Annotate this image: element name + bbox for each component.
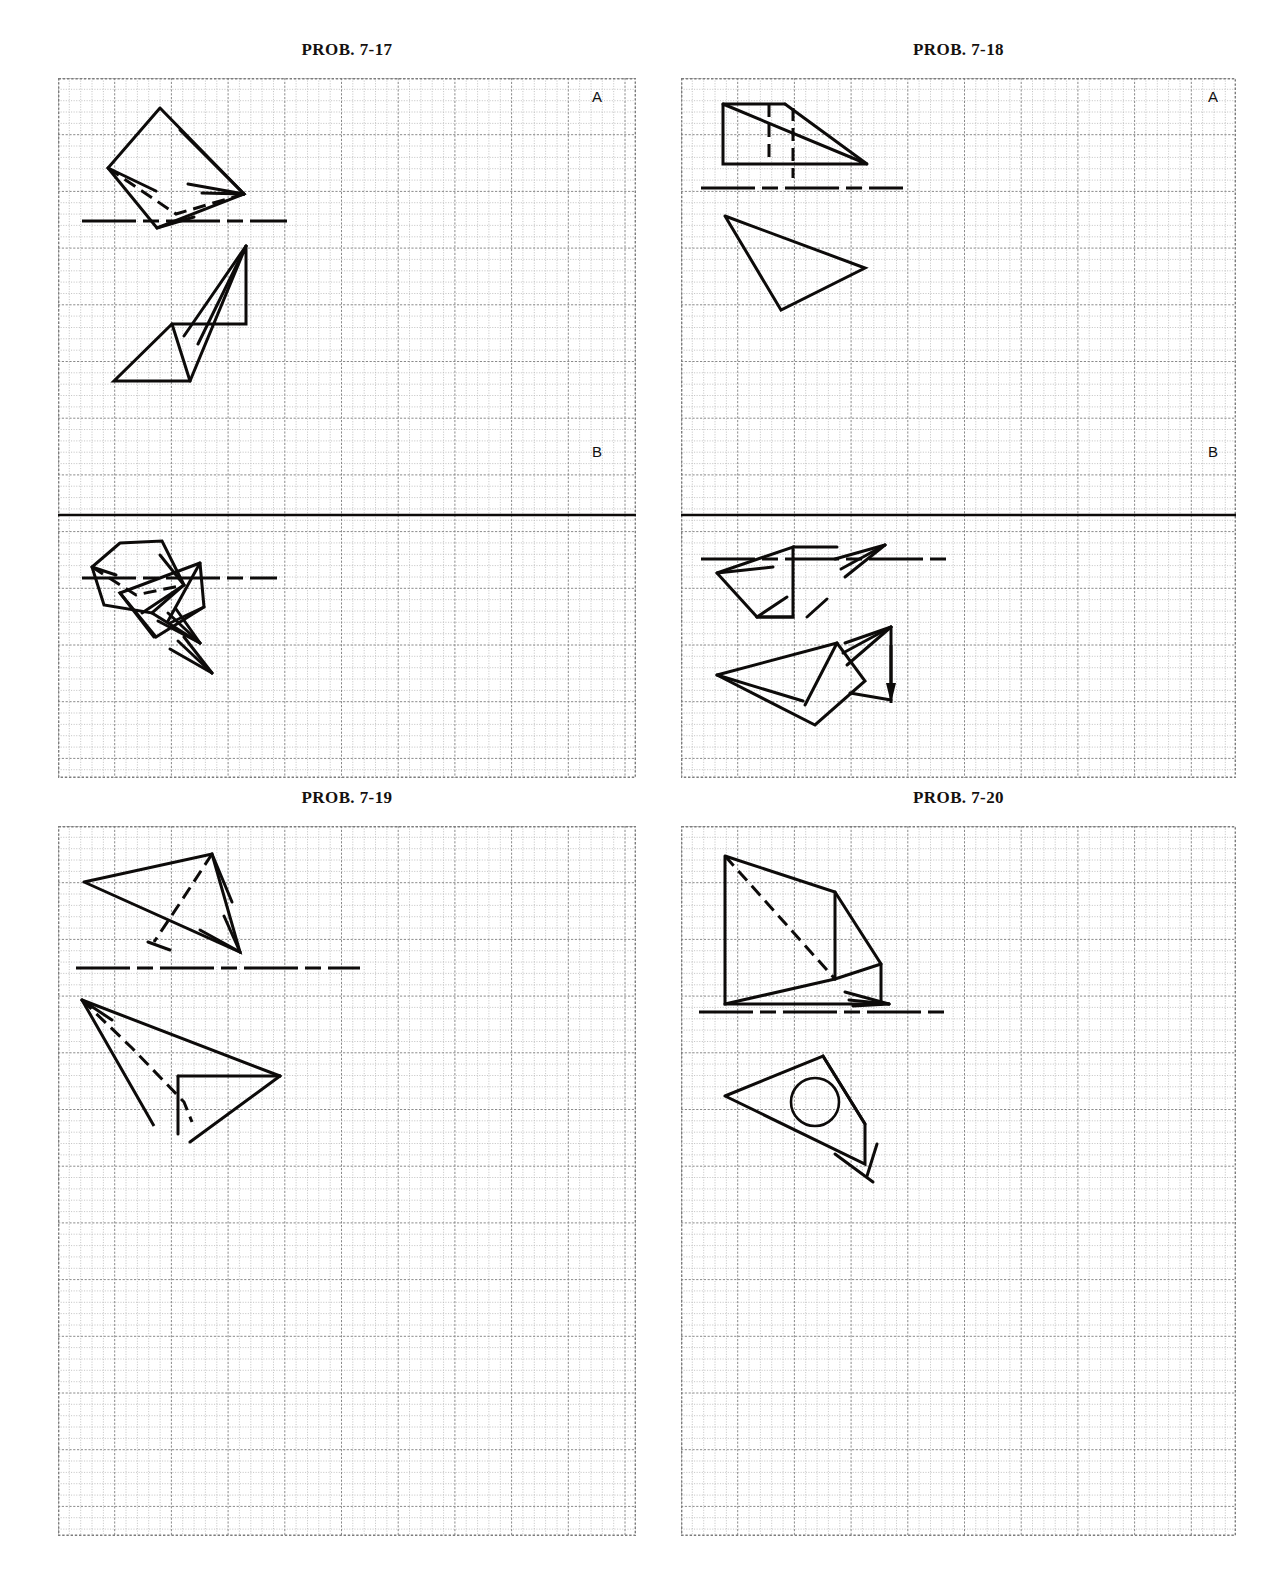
panel-title-prob-7-20: PROB. 7-20 xyxy=(681,788,1236,808)
grid-panel-prob-7-19 xyxy=(58,826,636,1536)
grid-and-drawing-prob-7-20 xyxy=(681,826,1236,1536)
solid-edge xyxy=(853,1004,889,1006)
panel-title-prob-7-19: PROB. 7-19 xyxy=(58,788,636,808)
panel-title-prob-7-17: PROB. 7-17 xyxy=(58,40,636,60)
zone-label-b-prob-7-18: B xyxy=(1208,443,1218,460)
grid-panel-prob-7-20 xyxy=(681,826,1236,1536)
panel-title-prob-7-18: PROB. 7-18 xyxy=(681,40,1236,60)
grid-and-drawing-prob-7-19 xyxy=(58,826,636,1536)
grid-panel-prob-7-17 xyxy=(58,78,636,778)
zone-label-a-prob-7-18: A xyxy=(1208,88,1218,105)
grid-and-drawing-prob-7-17 xyxy=(58,78,636,778)
grid-and-drawing-prob-7-18 xyxy=(681,78,1236,778)
zone-label-a-prob-7-17: A xyxy=(592,88,602,105)
zone-label-b-prob-7-17: B xyxy=(592,443,602,460)
grid-panel-prob-7-18 xyxy=(681,78,1236,778)
solid-edge xyxy=(202,193,244,194)
worksheet-sheet: PROB. 7-17PROB. 7-18PROB. 7-19PROB. 7-20… xyxy=(0,0,1276,1569)
